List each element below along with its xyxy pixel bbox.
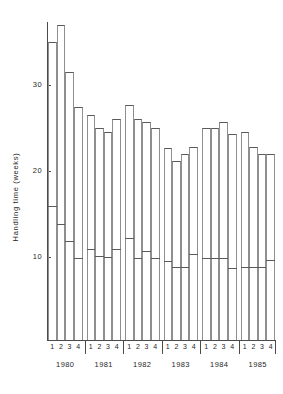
bar <box>228 134 237 340</box>
bar-inner-rule <box>87 249 96 250</box>
bar <box>258 154 267 341</box>
bar-inner-rule <box>134 258 143 259</box>
bar-series <box>48 22 275 340</box>
bar <box>142 122 151 340</box>
bar <box>181 154 190 341</box>
bar <box>211 128 220 340</box>
x-axis-year-label: 1980 <box>45 360 85 369</box>
bar-inner-rule <box>95 256 104 257</box>
bar-inner-rule <box>202 258 211 259</box>
x-axis-quarter-label: 4 <box>74 343 83 350</box>
bar-inner-rule <box>219 258 228 259</box>
x-axis-year-label: 1985 <box>238 360 278 369</box>
bar <box>125 105 134 341</box>
bar-inner-rule <box>125 238 134 239</box>
handling-time-chart: Handling time (weeks) 102030 12341980123… <box>0 0 283 394</box>
bar <box>249 147 258 341</box>
x-axis-year-label: 1982 <box>122 360 162 369</box>
bar-inner-rule <box>249 267 258 268</box>
bar <box>151 128 160 340</box>
bar <box>65 72 74 340</box>
bar <box>189 147 198 341</box>
bar <box>266 154 275 341</box>
bar-inner-rule <box>258 267 267 268</box>
x-axis-quarter-label: 4 <box>151 343 160 350</box>
x-axis-year-label: 1984 <box>199 360 239 369</box>
bar-inner-rule <box>142 251 151 252</box>
x-axis-year-label: 1983 <box>161 360 201 369</box>
bar <box>134 119 143 340</box>
plot-area: 102030 <box>47 22 275 340</box>
bar-inner-rule <box>228 268 237 269</box>
x-axis-quarter-label: 4 <box>266 343 275 350</box>
bar-inner-rule <box>164 261 173 262</box>
y-axis-tick-label: 30 <box>33 80 42 89</box>
x-axis-quarter-label: 4 <box>112 343 121 350</box>
bar <box>241 132 250 340</box>
bar <box>164 148 173 341</box>
bar-inner-rule <box>189 254 198 255</box>
bar-inner-rule <box>151 258 160 259</box>
bar-inner-rule <box>241 267 250 268</box>
bar-inner-rule <box>266 260 275 261</box>
bar <box>48 42 57 340</box>
bar <box>87 115 96 340</box>
bar-inner-rule <box>65 241 74 242</box>
bar <box>74 107 83 341</box>
bar-inner-rule <box>48 206 57 207</box>
y-axis-tick-label: 20 <box>33 166 42 175</box>
bar-inner-rule <box>181 267 190 268</box>
y-axis-tick-label: 10 <box>33 252 42 261</box>
x-axis-quarter-label: 4 <box>189 343 198 350</box>
x-axis-quarter-label: 4 <box>228 343 237 350</box>
bar <box>219 122 228 340</box>
bar-inner-rule <box>172 267 181 268</box>
x-axis-end-tick <box>275 340 276 354</box>
bar <box>172 161 181 341</box>
x-axis-year-label: 1981 <box>84 360 124 369</box>
bar-inner-rule <box>57 224 66 225</box>
bar-inner-rule <box>211 258 220 259</box>
bar-inner-rule <box>112 249 121 250</box>
bar-inner-rule <box>104 257 113 258</box>
bar <box>104 132 113 340</box>
bar <box>112 119 121 340</box>
bar <box>57 25 66 341</box>
bar-inner-rule <box>74 258 83 259</box>
bar <box>202 128 211 340</box>
y-axis-title: Handling time (weeks) <box>0 0 30 394</box>
bar <box>95 128 104 340</box>
